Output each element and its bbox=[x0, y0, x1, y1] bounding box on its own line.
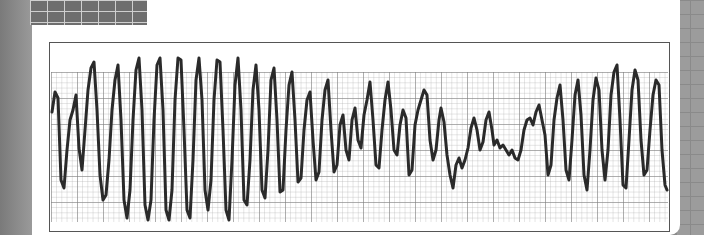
ecg-strip bbox=[0, 0, 704, 235]
background-top-tiles bbox=[30, 0, 147, 25]
